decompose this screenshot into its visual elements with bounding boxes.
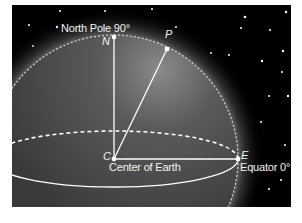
earth-illustration	[12, 5, 291, 207]
point-N	[112, 35, 117, 40]
point-N-label: N	[102, 35, 110, 47]
center-caption: Center of Earth	[109, 161, 181, 173]
equator-caption: Equator 0°	[240, 161, 290, 173]
earth-diagram: North Pole 90° N P C Center of Earth E E…	[12, 5, 291, 207]
north-pole-caption: North Pole 90°	[61, 22, 130, 34]
point-P-label: P	[165, 28, 172, 40]
point-E-label: E	[241, 149, 248, 161]
point-P	[165, 47, 170, 52]
